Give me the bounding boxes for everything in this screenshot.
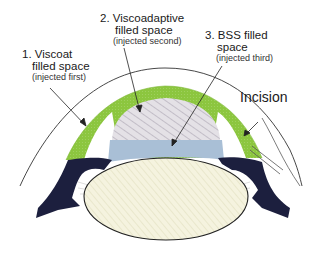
label-bss: 3. BSS filled space (injected third) bbox=[205, 29, 273, 64]
label-viscoat: 1. Viscoat filled space (injected first) bbox=[22, 48, 90, 83]
label-bss-line2: space bbox=[205, 41, 273, 53]
label-viscoadaptive: 2. Viscoadaptive filled space (injected … bbox=[100, 12, 184, 47]
label-viscoadaptive-note: (injected second) bbox=[100, 37, 184, 47]
label-incision: Incision bbox=[240, 90, 287, 105]
label-viscoat-note: (injected first) bbox=[22, 73, 90, 83]
label-viscoadaptive-line1: 2. Viscoadaptive bbox=[100, 12, 184, 24]
label-viscoat-line2: filled space bbox=[22, 60, 90, 72]
label-viscoat-line1: 1. Viscoat bbox=[22, 48, 90, 60]
label-bss-line1: 3. BSS filled bbox=[205, 29, 273, 41]
label-bss-note: (injected third) bbox=[205, 54, 273, 64]
label-viscoadaptive-line2: filled space bbox=[100, 24, 184, 36]
lens bbox=[84, 158, 248, 240]
